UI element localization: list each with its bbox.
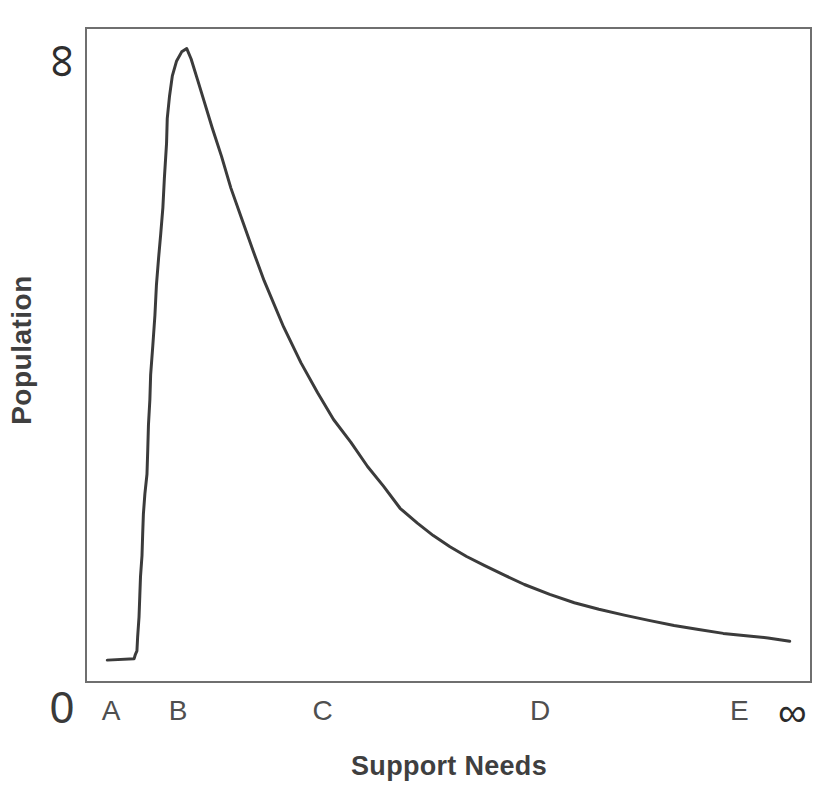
curve-line — [107, 49, 789, 661]
x-tick-infinity: ∞ — [778, 692, 807, 732]
x-tick-a: A — [102, 697, 121, 725]
x-axis-title: Support Needs — [351, 751, 547, 782]
x-tick-d: D — [530, 697, 550, 725]
y-axis-infinity-label: ∞ — [40, 44, 88, 78]
x-tick-c: C — [313, 697, 333, 725]
origin-label: 0 — [50, 686, 74, 730]
y-axis-title: Population — [6, 275, 38, 425]
plot-area — [85, 27, 812, 683]
figure-canvas: ∞ Population 0 ABCDE∞ Support Needs — [0, 0, 835, 800]
distribution-curve — [87, 29, 810, 681]
x-tick-e: E — [730, 697, 749, 725]
x-tick-b: B — [169, 697, 188, 725]
